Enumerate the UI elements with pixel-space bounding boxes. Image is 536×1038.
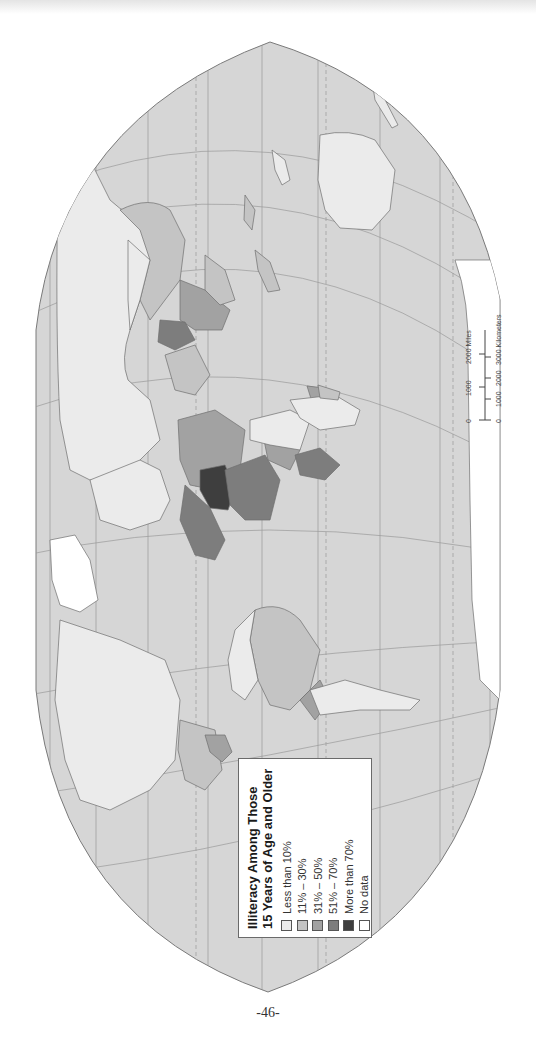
scale-bar-content: 0 1000 2000 Miles 0 1000 2000 3000 Kilom… bbox=[455, 300, 515, 430]
legend-swatch bbox=[343, 920, 354, 931]
legend-items: Less than 10% 11% – 30% 31% – 50% 51% – … bbox=[279, 767, 372, 931]
legend-label: 31% – 50% bbox=[312, 858, 324, 914]
legend-swatch bbox=[297, 920, 308, 931]
legend-label: No data bbox=[358, 875, 370, 914]
scale-km-2000: 2000 bbox=[495, 370, 502, 386]
legend-item-31-50: 31% – 50% bbox=[310, 767, 326, 931]
legend-label: More than 70% bbox=[343, 839, 355, 914]
scale-km-1000: 1000 bbox=[495, 391, 502, 407]
page-number: -46- bbox=[0, 1005, 536, 1021]
scale-miles-2000: 2000 Miles bbox=[465, 330, 472, 364]
scale-km-0: 0 bbox=[495, 419, 502, 423]
map-legend: Illiteracy Among Those 15 Years of Age a… bbox=[238, 758, 372, 938]
legend-title-line1: Illiteracy Among Those bbox=[245, 767, 260, 929]
legend-item-51-70: 51% – 70% bbox=[326, 767, 342, 931]
legend-swatch bbox=[312, 920, 323, 931]
legend-swatch bbox=[328, 920, 339, 931]
legend-swatch bbox=[281, 920, 292, 931]
legend-item-more-than-70: More than 70% bbox=[341, 767, 357, 931]
legend-title-line2: 15 Years of Age and Older bbox=[260, 767, 275, 929]
legend-label: Less than 10% bbox=[281, 841, 293, 914]
legend-item-11-30: 11% – 30% bbox=[295, 767, 311, 931]
scale-miles-0: 0 bbox=[465, 419, 472, 423]
legend-title: Illiteracy Among Those 15 Years of Age a… bbox=[245, 767, 275, 929]
legend-item-no-data: No data bbox=[357, 767, 373, 931]
scale-bar-graphic bbox=[455, 300, 515, 430]
scale-bar: 0 1000 2000 Miles 0 1000 2000 3000 Kilom… bbox=[455, 300, 515, 430]
scale-km-3000: 3000 Kilometers bbox=[495, 314, 502, 365]
legend-label: 51% – 70% bbox=[327, 858, 339, 914]
legend-content: Illiteracy Among Those 15 Years of Age a… bbox=[239, 759, 373, 939]
scale-miles-1000: 1000 bbox=[465, 380, 472, 396]
legend-item-less-than-10: Less than 10% bbox=[279, 767, 295, 931]
legend-label: 11% – 30% bbox=[296, 859, 308, 914]
legend-swatch bbox=[359, 920, 370, 931]
